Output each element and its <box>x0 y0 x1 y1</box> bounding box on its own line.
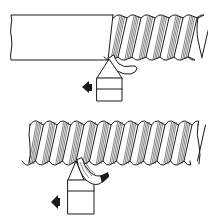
thread-flank-line <box>101 122 109 164</box>
thread-root-line <box>160 18 169 57</box>
thread-flank-line <box>88 122 96 164</box>
final-pass-panel <box>22 121 206 214</box>
thread-cutting-diagram <box>0 0 208 220</box>
thread-flank-line <box>42 122 50 164</box>
thread-flank-line <box>47 122 55 164</box>
first-pass-panel <box>11 15 209 101</box>
thread-flank-line <box>69 122 77 164</box>
thread-flank-line <box>150 122 158 164</box>
thread-flank-line <box>57 122 65 164</box>
thread-root-line <box>118 18 127 57</box>
thread-flank-line <box>61 122 69 164</box>
thread-root-line <box>132 18 141 57</box>
thread-flank-line <box>169 122 177 164</box>
thread-flank-line <box>142 122 150 164</box>
thread-flank-line <box>71 122 79 164</box>
thread-flank-line <box>138 122 146 164</box>
thread-flank-line <box>30 122 38 164</box>
top-feed-arrow-icon <box>82 81 92 93</box>
thread-flank-line <box>165 122 173 164</box>
thread-flank-line <box>179 122 187 164</box>
thread-flank-line <box>182 122 190 164</box>
thread-flank-line <box>152 122 160 164</box>
thread-flank-line <box>125 122 133 164</box>
thread-root-line <box>202 18 208 57</box>
bottom-threaded-bar <box>22 121 206 165</box>
thread-root-line <box>146 18 155 57</box>
thread-flank-line <box>111 122 119 164</box>
thread-flank-line <box>110 122 118 164</box>
thread-root-line <box>188 18 197 57</box>
top-plain-bar <box>11 15 114 60</box>
thread-flank-line <box>74 122 82 164</box>
bottom-bar-left-end <box>29 124 30 163</box>
thread-flank-line <box>115 122 123 164</box>
thread-flank-line <box>137 122 145 164</box>
thread-flank-line <box>155 122 163 164</box>
thread-flank-line <box>123 122 131 164</box>
thread-root-line <box>174 18 183 57</box>
top-threaded-section <box>104 15 208 60</box>
thread-flank-line <box>56 122 64 164</box>
thread-flank-line <box>44 122 52 164</box>
bottom-feed-arrow-icon <box>51 195 60 209</box>
thread-flank-line <box>177 122 185 164</box>
thread-flank-line <box>98 122 106 164</box>
thread-flank-line <box>96 122 104 164</box>
thread-flank-line <box>34 122 42 164</box>
thread-flank-line <box>84 122 92 164</box>
thread-crest-line-top <box>113 15 204 18</box>
top-bar-right-end <box>197 17 202 58</box>
thread-flank-line <box>128 122 136 164</box>
thread-flank-line <box>83 122 91 164</box>
thread-flank-line <box>164 122 172 164</box>
